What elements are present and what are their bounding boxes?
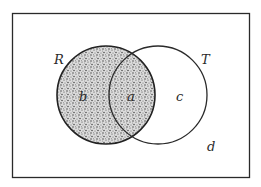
region-d-label: d <box>207 139 215 154</box>
region-b-label: b <box>79 89 87 104</box>
venn-diagram: R T b a c d <box>0 0 261 187</box>
set-r-label: R <box>53 52 64 67</box>
set-t-label: T <box>201 52 211 67</box>
region-c-label: c <box>176 89 184 104</box>
region-a-label: a <box>127 89 135 104</box>
set-r-circle <box>57 46 155 144</box>
